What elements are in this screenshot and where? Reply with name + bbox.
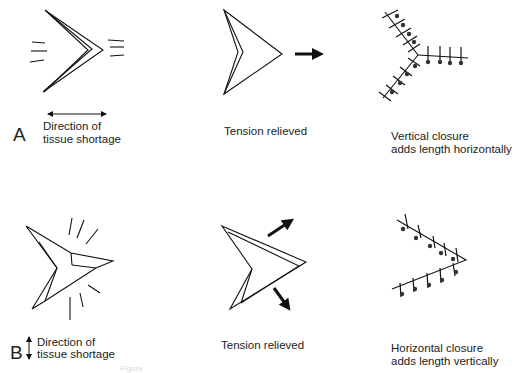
panel-label-b: B <box>10 342 23 364</box>
right-caption-a-line2: adds length horizontally <box>391 143 512 156</box>
direction-label-a-line2: tissue shortage <box>43 133 121 146</box>
panel-label-a: A <box>13 124 26 146</box>
v-incision-relieved <box>224 10 282 94</box>
v-incision-relieved-b <box>222 226 306 309</box>
diagram-canvas <box>0 0 520 373</box>
right-caption-b-line2: adds length vertically <box>391 355 498 368</box>
direction-label-b-line2: tissue shortage <box>37 348 115 361</box>
middle-caption-a: Tension relieved <box>224 125 307 138</box>
figure-caption-fragment: Figure <box>120 364 143 373</box>
middle-caption-b: Tension relieved <box>221 339 304 352</box>
right-caption-a-line1: Vertical closure <box>391 130 469 143</box>
v-incision-stressed-vertical <box>26 218 113 320</box>
direction-label-a-line1: Direction of <box>43 120 101 133</box>
tension-arrow-down-right-icon <box>274 288 287 306</box>
right-caption-b-line1: Horizontal closure <box>391 342 483 355</box>
v-incision-stressed <box>30 10 124 92</box>
zigzag-closure-sutured <box>392 214 466 297</box>
tension-arrow-up-right-icon <box>268 222 289 236</box>
y-closure-sutured <box>379 10 468 101</box>
